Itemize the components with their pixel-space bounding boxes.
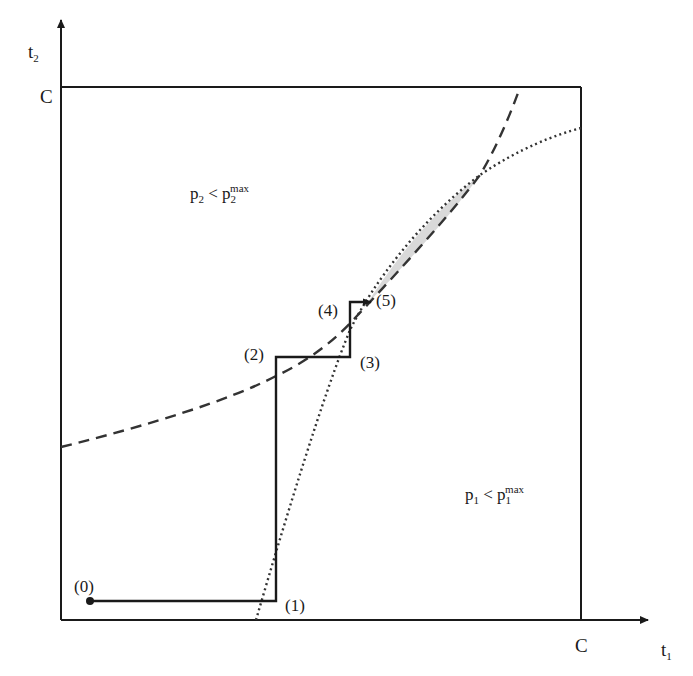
- shaded-feasible-region: [366, 175, 480, 305]
- y-tick-capacity: C: [40, 87, 53, 106]
- start-point-dot: [86, 597, 94, 605]
- dotted-curve-p1-max: [256, 128, 581, 620]
- x-axis-label: t1: [661, 640, 672, 662]
- region-p1-base: p: [465, 485, 474, 504]
- x-axis-label-sub: 1: [666, 650, 672, 662]
- diagram-canvas: [0, 0, 693, 676]
- point-label-2: (2): [244, 346, 264, 363]
- point-label-5: (5): [376, 292, 396, 309]
- point-label-1: (1): [285, 597, 305, 614]
- region-p2-base: p: [190, 184, 199, 203]
- region-p2-sub2: 2: [231, 193, 237, 205]
- dashed-curve-p2-max: [61, 93, 518, 447]
- region-p1-sup2: max: [505, 483, 524, 495]
- point-label-4: (4): [318, 302, 338, 319]
- trajectory-path: [90, 302, 371, 601]
- x-tick-capacity: C: [575, 636, 588, 655]
- region-p1-op: <: [479, 485, 497, 504]
- region-p2-op: <: [204, 184, 222, 203]
- region-label-p2: p2 < p2max: [190, 183, 249, 205]
- point-label-0: (0): [74, 578, 94, 595]
- region-p2-sup2: max: [230, 182, 249, 194]
- region-p1-sub2: 1: [506, 494, 512, 506]
- y-axis-label-sub: 2: [33, 52, 39, 64]
- y-axis-label: t2: [28, 42, 39, 64]
- region-label-p1: p1 < p1max: [465, 484, 524, 506]
- point-label-3: (3): [360, 354, 380, 371]
